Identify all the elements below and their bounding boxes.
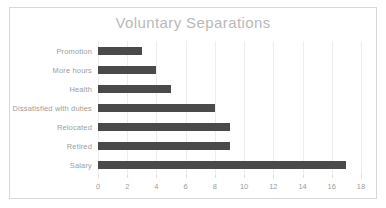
bar — [98, 123, 230, 131]
bar — [98, 66, 156, 74]
x-axis-tick-label: 2 — [125, 182, 129, 191]
bar-row: Promotion — [98, 41, 361, 60]
bar-row: Relocated — [98, 118, 361, 137]
bar-row: More hours — [98, 60, 361, 79]
bar — [98, 142, 230, 150]
category-label: More hours — [53, 65, 92, 74]
bar — [98, 161, 346, 169]
x-axis-tick-label: 12 — [269, 182, 277, 191]
x-axis-tick-label: 14 — [298, 182, 306, 191]
category-label: Retired — [67, 142, 92, 151]
x-axis-tick-label: 6 — [184, 182, 188, 191]
category-label: Relocated — [57, 123, 92, 132]
category-label: Dissatisfied with duties — [13, 103, 92, 112]
bar-row: Dissatisfied with duties — [98, 98, 361, 117]
gridline — [361, 41, 362, 175]
bar-row: Salary — [98, 156, 361, 175]
bar — [98, 47, 142, 55]
x-axis-tick-mark — [244, 175, 245, 178]
x-axis-tick-mark — [303, 175, 304, 178]
x-axis-tick-label: 18 — [357, 182, 365, 191]
x-axis-tick-mark — [98, 175, 99, 178]
x-axis-tick-mark — [273, 175, 274, 178]
x-axis-tick-mark — [361, 175, 362, 178]
x-axis-tick-mark — [332, 175, 333, 178]
plot-area: 024681012141618PromotionMore hoursHealth… — [98, 41, 361, 175]
x-axis-tick-mark — [215, 175, 216, 178]
category-label: Salary — [70, 161, 92, 170]
x-axis-tick-label: 4 — [154, 182, 158, 191]
x-axis-tick-label: 0 — [96, 182, 100, 191]
bar — [98, 104, 215, 112]
x-axis-tick-mark — [186, 175, 187, 178]
x-axis-tick-label: 8 — [213, 182, 217, 191]
x-axis-tick-label: 10 — [240, 182, 248, 191]
chart-title: Voluntary Separations — [0, 14, 386, 31]
category-label: Health — [69, 84, 92, 93]
bar-row: Health — [98, 79, 361, 98]
x-axis-tick-label: 16 — [328, 182, 336, 191]
chart-container: Voluntary Separations 024681012141618Pro… — [0, 0, 386, 208]
bar-row: Retired — [98, 137, 361, 156]
x-axis-tick-mark — [127, 175, 128, 178]
category-label: Promotion — [56, 46, 92, 55]
bar — [98, 85, 171, 93]
x-axis-tick-mark — [156, 175, 157, 178]
